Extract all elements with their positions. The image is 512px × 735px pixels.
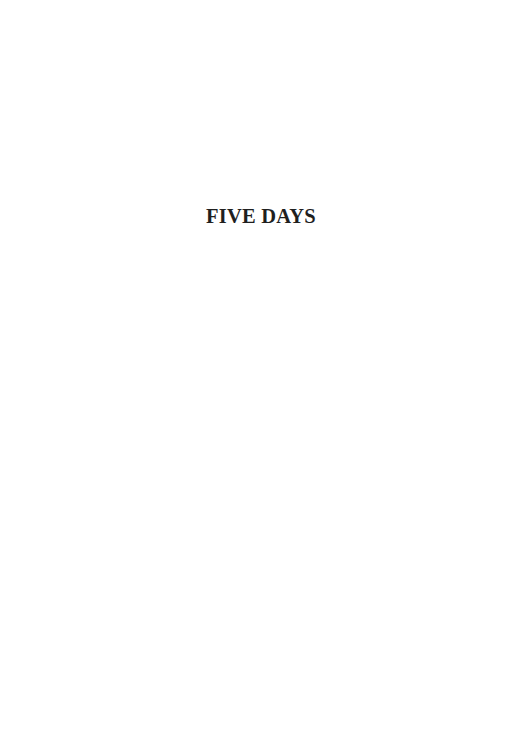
document-page: FIVE DAYS bbox=[0, 0, 512, 735]
page-title: FIVE DAYS bbox=[0, 203, 512, 229]
